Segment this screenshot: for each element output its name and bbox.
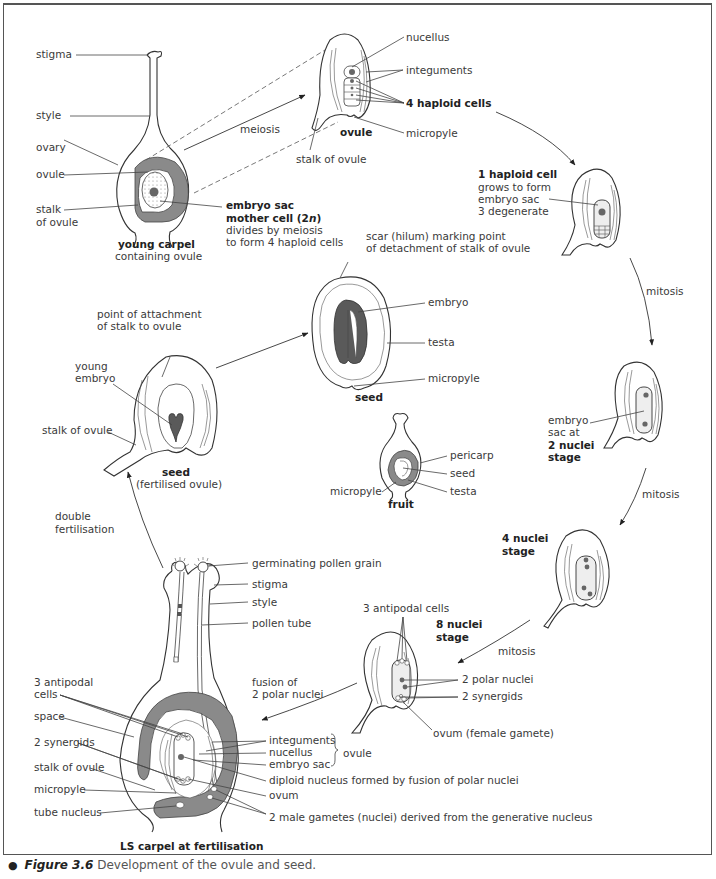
mitosis-arrow-1 <box>630 258 652 345</box>
label-style: style <box>36 109 61 121</box>
label-pericarp: pericarp <box>450 449 494 461</box>
label-stigma-ls: stigma <box>252 578 288 590</box>
label-antipodal-1: 3 antipodal <box>34 676 93 688</box>
label-style-ls: style <box>252 596 277 608</box>
label-diploid-nucleus: diploid nucleus formed by fusion of pola… <box>269 774 519 786</box>
label-stalk-of-ovule: stalk of ovule <box>296 153 367 165</box>
two-nuclei-line4: stage <box>548 451 581 463</box>
label-micropyle: micropyle <box>406 127 458 139</box>
label-germinating-pollen-grain: germinating pollen grain <box>252 557 382 569</box>
zoom-line-top <box>146 50 325 160</box>
mother-cell-line4: to form 4 haploid cells <box>226 236 343 248</box>
fusion-label-1: fusion of <box>252 676 298 688</box>
label-stalk-of-ovule-seed: stalk of ovule <box>42 424 113 436</box>
fruit-drawing <box>380 414 421 501</box>
mother-cell-line1: embryo sac <box>226 199 294 211</box>
label-testa: testa <box>428 336 455 348</box>
two-nuclei-drawing <box>604 362 662 448</box>
fusion-label-2: 2 polar nuclei <box>252 688 324 700</box>
ls-carpel-drawing <box>120 557 238 832</box>
label-micropyle-ls: micropyle <box>34 783 86 795</box>
mitosis-label-3: mitosis <box>498 645 536 657</box>
label-2-male-gametes: 2 male gametes (nuclei) derived from the… <box>269 811 592 823</box>
two-nuclei-line3: 2 nuclei <box>548 439 594 451</box>
figure-caption: ● Figure 3.6 Development of the ovule an… <box>8 858 316 872</box>
label-ovary: ovary <box>36 141 66 153</box>
seed-drawing <box>312 277 391 390</box>
label-scar-1: scar (hilum) marking point <box>366 230 506 242</box>
label-testa-fruit: testa <box>450 485 477 497</box>
label-4-haploid-cells: 4 haploid cells <box>406 97 491 109</box>
label-micropyle-seed: micropyle <box>428 372 480 384</box>
label-attachment-2: of stalk to ovule <box>97 320 181 332</box>
label-seed-fruit: seed <box>450 467 475 479</box>
label-stigma: stigma <box>36 48 72 60</box>
one-haploid-line1: 1 haploid cell <box>478 168 557 180</box>
young-carpel-title: young carpel <box>118 238 195 250</box>
label-stalk-2: of ovule <box>36 216 78 228</box>
label-micropyle-fruit: micropyle <box>330 485 382 497</box>
label-nucellus-ls: nucellus <box>269 746 313 758</box>
eight-nuclei-line1: 8 nuclei <box>436 618 482 630</box>
eight-nuclei-drawing <box>352 632 418 733</box>
label-2-synergids-ls: 2 synergids <box>34 736 95 748</box>
fertilised-ovule-title: seed <box>162 466 190 478</box>
four-nuclei-line1: 4 nuclei <box>502 532 548 544</box>
fertilised-ovule-drawing <box>104 356 217 476</box>
mother-cell-line2: mother cell (2n) <box>226 212 321 224</box>
label-space: space <box>34 710 65 722</box>
arrow-to-seed <box>216 333 308 368</box>
two-nuclei-line1: embryo <box>548 414 588 426</box>
label-stalk-of-ovule-ls: stalk of ovule <box>34 761 105 773</box>
label-young-1: young <box>75 360 108 372</box>
caption-bullet: ● <box>8 859 18 872</box>
label-ovule: ovule <box>36 168 65 180</box>
one-haploid-drawing <box>562 169 620 255</box>
label-antipodal-2: cells <box>34 688 58 700</box>
label-2-polar-nuclei: 2 polar nuclei <box>462 673 534 685</box>
label-nucellus: nucellus <box>406 31 450 43</box>
ls-carpel-title: LS carpel at fertilisation <box>120 840 263 852</box>
label-pollen-tube: pollen tube <box>252 617 311 629</box>
one-haploid-line4: 3 degenerate <box>478 205 549 217</box>
label-attachment-1: point of attachment <box>97 308 202 320</box>
eight-nuclei-line2: stage <box>436 631 469 643</box>
label-young-2: embryo <box>75 372 115 384</box>
ovule-drawing <box>312 34 370 130</box>
arrow-to-embryo-sac <box>496 112 575 165</box>
four-nuclei-drawing <box>544 530 609 628</box>
one-haploid-line2: grows to form <box>478 181 551 193</box>
figure-number: Figure 3.6 <box>24 858 93 872</box>
young-carpel-subtitle: containing ovule <box>115 250 202 262</box>
mitosis-label-1: mitosis <box>646 285 684 297</box>
ovule-title: ovule <box>340 126 372 138</box>
label-embryo-sac-ls: embryo sac <box>269 758 331 770</box>
ovule-seed-diagram: stigma style ovary ovule stalk of ovule … <box>0 0 716 879</box>
label-ovule-group: ovule <box>343 747 372 759</box>
meiosis-label: meiosis <box>240 123 280 135</box>
four-nuclei-line2: stage <box>502 545 535 557</box>
label-integuments: integuments <box>406 64 472 76</box>
mitosis-label-2: mitosis <box>642 488 680 500</box>
seed-title: seed <box>355 391 383 403</box>
figure-caption-text: Development of the ovule and seed. <box>97 858 316 872</box>
young-carpel-drawing <box>117 51 189 247</box>
label-3-antipodal-cells: 3 antipodal cells <box>363 602 449 614</box>
one-haploid-line3: embryo sac <box>478 193 540 205</box>
label-2-synergids: 2 synergids <box>462 690 523 702</box>
label-ovum-female-gamete: ovum (female gamete) <box>433 727 554 739</box>
mother-cell-line3: divides by meiosis <box>226 224 323 236</box>
label-scar-2: of detachment of stalk of ovule <box>366 242 530 254</box>
double-fertilisation-1: double <box>55 510 91 522</box>
label-stalk-1: stalk <box>36 203 62 215</box>
label-ovum-ls: ovum <box>269 789 299 801</box>
label-integuments-ls: integuments <box>269 734 335 746</box>
fertilised-ovule-subtitle: (fertilised ovule) <box>136 478 222 490</box>
fruit-title: fruit <box>388 498 414 510</box>
two-nuclei-line2: sac at <box>548 426 580 438</box>
label-embryo: embryo <box>428 296 468 308</box>
double-fertilisation-2: fertilisation <box>55 523 114 535</box>
label-tube-nucleus: tube nucleus <box>34 806 102 818</box>
